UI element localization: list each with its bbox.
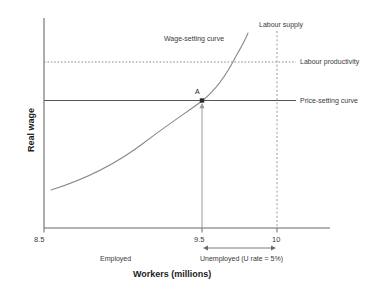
point-a-arrowhead-icon <box>199 103 204 108</box>
employed-region-label: Employed <box>100 255 131 262</box>
labour-supply-label: Labour supply <box>259 21 303 28</box>
point-a-label: A <box>195 88 200 95</box>
chart-figure: Real wage Workers (millions) Wage-settin… <box>0 0 380 290</box>
chart-canvas <box>0 0 380 290</box>
price-setting-curve-label: Price-setting curve <box>300 97 358 104</box>
x-tick-label-9-5: 9.5 <box>194 236 204 244</box>
unemployed-arrow-right-head-icon <box>271 246 276 251</box>
wage-setting-curve <box>51 33 248 190</box>
unemployed-region-label: Unemployed (U rate = 5%) <box>200 255 283 262</box>
x-tick-label-10: 10 <box>272 236 280 244</box>
point-a-marker <box>200 98 204 102</box>
x-axis-title: Workers (millions) <box>133 270 211 279</box>
labour-productivity-label: Labour productivity <box>300 58 359 65</box>
wage-setting-curve-label: Wage-setting curve <box>164 35 224 42</box>
x-tick-label-8-5: 8.5 <box>34 236 44 244</box>
unemployed-arrow-left-head-icon <box>203 246 208 251</box>
y-axis-title: Real wage <box>26 108 36 152</box>
